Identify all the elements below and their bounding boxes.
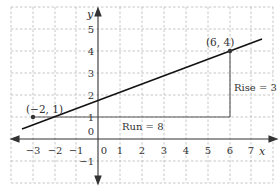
x-tick: 4: [183, 145, 189, 156]
y-axis-label: y: [86, 8, 94, 21]
x-tick: 7: [248, 145, 254, 156]
y-tick: −1: [79, 156, 94, 167]
point-a-marker: [31, 115, 35, 119]
x-tick: 0: [101, 145, 107, 156]
y-axis-down-arrow-icon: [95, 176, 101, 184]
x-axis-label: x: [259, 145, 266, 158]
x-axis-left-arrow-icon: [11, 136, 19, 142]
x-tick: 3: [161, 145, 167, 156]
x-tick: −3: [26, 145, 41, 156]
x-tick: 2: [139, 145, 145, 156]
y-tick: 4: [88, 46, 94, 57]
point-b-label: (6, 4): [206, 36, 234, 48]
x-tick: −2: [48, 145, 63, 156]
y-tick: 1: [88, 112, 94, 123]
x-tick: −1: [69, 145, 84, 156]
run-label: Run = 8: [122, 121, 164, 132]
x-axis-right-arrow-icon: [269, 136, 277, 142]
x-tick: 1: [117, 145, 123, 156]
point-b-marker: [228, 49, 232, 53]
graph-svg: (−2, 1) (6, 4) Run = 8 Rise = 3 x y −3 −…: [0, 0, 280, 190]
x-tick: 5: [205, 145, 211, 156]
y-tick: 5: [88, 24, 94, 35]
y-axis-up-arrow-icon: [95, 8, 101, 16]
coordinate-plane: (−2, 1) (6, 4) Run = 8 Rise = 3 x y −3 −…: [0, 0, 280, 190]
axes: [11, 8, 277, 184]
y-tick: 0: [88, 126, 94, 137]
y-tick: 2: [88, 90, 94, 101]
grid: [11, 7, 273, 183]
x-tick: 6: [227, 145, 233, 156]
y-tick: 3: [88, 68, 94, 79]
point-a-label: (−2, 1): [26, 103, 63, 115]
rise-label: Rise = 3: [234, 82, 277, 93]
x-tick-labels: −3 −2 −1 0 1 2 3 4 5 6 7: [26, 145, 255, 156]
